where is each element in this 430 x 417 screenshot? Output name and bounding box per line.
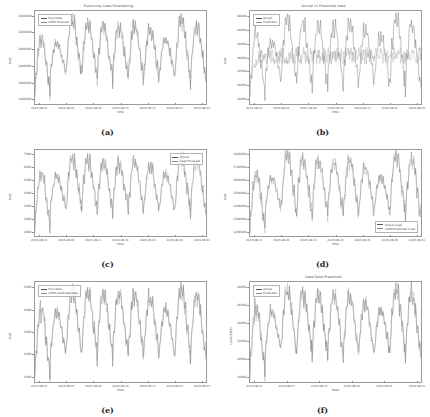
legend-swatch-icon [377, 224, 383, 225]
x-tick-mark [202, 381, 203, 383]
y-tick-label: 22000 [237, 339, 247, 343]
subplot-cell-e: load 50004000300020001000 True data LSTM… [0, 271, 215, 417]
y-tick-label: 20000 [237, 357, 247, 361]
y-tick-label: 48000 [237, 14, 247, 18]
legend-swatch-icon [256, 22, 262, 23]
caption-b: (b) [215, 127, 430, 137]
legend-swatch-icon [256, 289, 262, 290]
legend-label: LSTM Forecast [48, 20, 69, 24]
x-tick-mark [148, 381, 149, 383]
x-tick-label: 2023-08-25 [194, 106, 210, 110]
panel-a-xlabel: time [34, 110, 207, 114]
panel-e: load 50004000300020001000 True data LSTM… [8, 274, 209, 397]
x-tick-mark [308, 235, 309, 237]
panel-c-axes: Actual Load Forecast [34, 149, 207, 237]
x-tick-label: 2023-08-05 [273, 106, 289, 110]
legend-swatch-icon [172, 157, 178, 158]
x-tick-mark [148, 235, 149, 237]
x-tick-mark [390, 235, 391, 237]
subplot-cell-c: load 7000600050004000300020001000 Actual… [0, 139, 215, 271]
y-tick-label: 24000 [237, 97, 247, 101]
x-tick-label: 2023-08-21 [167, 106, 183, 110]
x-tick-label: 2023-08-05 [58, 384, 74, 388]
y-tick-label: 1600000 [18, 81, 31, 85]
x-tick-mark [66, 235, 67, 237]
y-tick-label: 44000 [237, 28, 247, 32]
panel-e-title [8, 274, 209, 281]
y-tick-label: 5000 [24, 178, 32, 182]
x-tick-label: 2023-08-25 [376, 384, 392, 388]
legend-swatch-icon [172, 161, 178, 162]
x-tick-mark [148, 103, 149, 105]
y-tick-label: 36000 [237, 56, 247, 60]
panel-b-legend: Actual Prediction [253, 14, 280, 26]
x-tick-mark [417, 235, 418, 237]
panel-e-yticks: 50004000300020001000 [8, 281, 33, 383]
y-tick-label: 1200000 [233, 230, 246, 234]
x-tick-mark [39, 103, 40, 105]
x-tick-label: 2023-08-09 [85, 106, 101, 110]
x-tick-mark [384, 381, 385, 383]
x-tick-mark [93, 381, 94, 383]
y-tick-label: 18000 [237, 375, 247, 379]
panel-b-yticks: 48000440004000036000320002800024000 [223, 10, 248, 105]
x-tick-mark [66, 103, 67, 105]
panel-a-legend: True Data LSTM Forecast [38, 14, 72, 26]
x-tick-mark [93, 103, 94, 105]
caption-f: (f) [215, 405, 430, 415]
x-tick-label: 2023-08-21 [139, 238, 155, 242]
figure-sheet: Electricity Load Forecasting load 240000… [0, 0, 430, 417]
legend-label: Prediction [263, 20, 277, 24]
y-tick-label: 1800000 [18, 64, 31, 68]
x-tick-label: 2023-08-09 [85, 384, 101, 388]
x-tick-label: 2023-08-13 [112, 106, 128, 110]
x-tick-label: 2023-08-26 [167, 238, 183, 242]
x-tick-mark [175, 381, 176, 383]
legend-label: LSTM predicted data [48, 291, 78, 295]
subplot-cell-f: Load Data Prediction Load (kWh) 28000260… [215, 271, 430, 417]
y-tick-label: 28000 [237, 83, 247, 87]
y-tick-label: 4000 [24, 308, 32, 312]
x-tick-label: 2023-08-01 [246, 106, 262, 110]
legend-entry: Predicted [256, 291, 277, 295]
panel-b: Actual vs Predicted Load load 4800044000… [223, 3, 424, 119]
x-tick-label: 2023-08-17 [354, 106, 370, 110]
x-tick-label: 2023-08-25 [409, 106, 425, 110]
x-tick-mark [202, 235, 203, 237]
y-tick-label: 40000 [237, 42, 247, 46]
panel-a: Electricity Load Forecasting load 240000… [8, 3, 209, 119]
x-tick-label: 2023-08-06 [273, 238, 289, 242]
panel-f: Load Data Prediction Load (kWh) 28000260… [223, 274, 424, 397]
y-tick-label: 7000 [24, 152, 32, 156]
x-tick-mark [417, 103, 418, 105]
x-tick-mark [363, 235, 364, 237]
panel-d-legend: Actual Load LSTM Predicted Load [375, 221, 418, 233]
y-tick-label: 1300000 [233, 217, 246, 221]
panel-e-axes: True data LSTM predicted data [34, 281, 207, 383]
x-tick-mark [39, 235, 40, 237]
x-tick-label: 2023-08-01 [31, 384, 47, 388]
y-tick-label: 1400000 [233, 204, 246, 208]
panel-b-axes: Actual Prediction [249, 10, 422, 105]
subplot-cell-b: Actual vs Predicted Load load 4800044000… [215, 0, 430, 139]
x-tick-mark [254, 235, 255, 237]
x-tick-label: 2023-08-19 [344, 384, 360, 388]
y-tick-label: 4000 [24, 191, 32, 195]
y-tick-label: 1000 [24, 230, 32, 234]
x-tick-mark [281, 235, 282, 237]
legend-swatch-icon [41, 22, 47, 23]
x-tick-label: 2023-08-05 [58, 106, 74, 110]
y-tick-label: 2000000 [18, 47, 31, 51]
x-tick-label: 2023-08-26 [382, 238, 398, 242]
x-tick-mark [175, 103, 176, 105]
y-tick-label: 2000 [24, 352, 32, 356]
y-tick-label: 1600000 [233, 178, 246, 182]
x-tick-mark [121, 103, 122, 105]
panel-a-title: Electricity Load Forecasting [8, 3, 209, 10]
panel-f-title: Load Data Prediction [223, 274, 424, 281]
y-tick-label: 2200000 [18, 30, 31, 34]
x-tick-label: 2023-08-21 [354, 238, 370, 242]
panel-c-title [8, 142, 209, 149]
x-tick-mark [254, 103, 255, 105]
x-tick-label: 2023-08-01 [31, 106, 47, 110]
